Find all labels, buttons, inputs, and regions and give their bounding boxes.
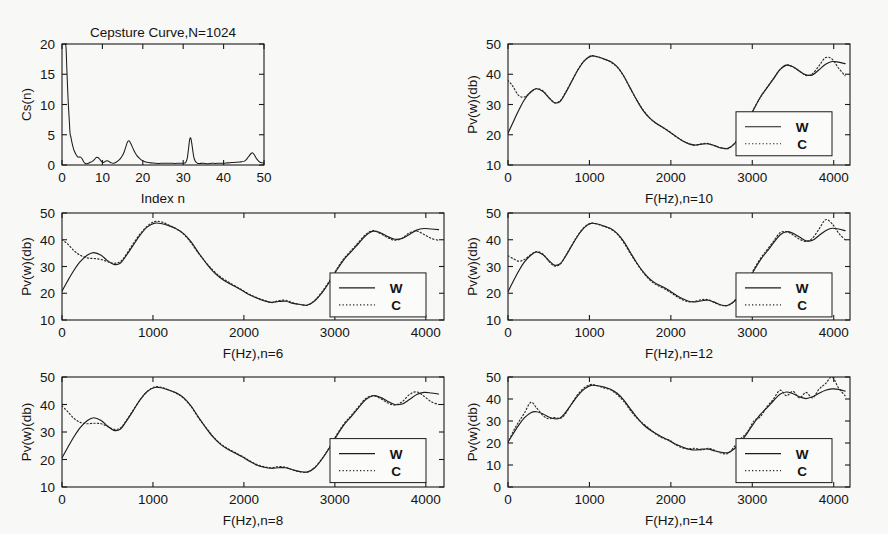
x-tick-label: 2000 xyxy=(656,325,686,340)
y-tick-label: 40 xyxy=(486,233,501,248)
x-tick-label: 0 xyxy=(58,492,66,507)
x-tick-label: 20 xyxy=(135,170,150,185)
x-tick-label: 2000 xyxy=(656,492,686,507)
legend-label-w: W xyxy=(796,281,809,296)
y-tick-label: 10 xyxy=(486,313,501,328)
y-tick-label: 50 xyxy=(486,206,501,221)
y-tick-label: 40 xyxy=(40,233,55,248)
y-axis-label: Pv(w)(db) xyxy=(465,237,480,296)
plot-frame xyxy=(62,44,264,165)
legend-label-w: W xyxy=(390,447,403,462)
x-tick-label: 4000 xyxy=(411,325,441,340)
y-tick-label: 30 xyxy=(486,414,501,429)
y-axis-label: Pv(w)(db) xyxy=(19,403,34,462)
subplot-spectrum-n10: 010002000300040001020304050Pv(w)(db)F(Hz… xyxy=(462,24,864,209)
y-tick-label: 50 xyxy=(40,370,55,385)
y-tick-label: 40 xyxy=(486,67,501,82)
x-tick-label: 2000 xyxy=(229,325,259,340)
y-tick-label: 20 xyxy=(486,436,501,451)
x-tick-label: 4000 xyxy=(411,492,441,507)
x-tick-label: 3000 xyxy=(737,492,767,507)
x-axis-label: F(Hz),n=8 xyxy=(223,513,283,528)
x-tick-label: 1000 xyxy=(574,170,604,185)
legend-label-w: W xyxy=(796,447,809,462)
legend-label-w: W xyxy=(796,120,809,135)
x-tick-label: 50 xyxy=(256,170,271,185)
y-tick-label: 50 xyxy=(40,206,55,221)
y-tick-label: 15 xyxy=(40,67,55,82)
legend-label-c: C xyxy=(391,464,401,479)
legend-label-w: W xyxy=(390,281,403,296)
y-tick-label: 30 xyxy=(486,260,501,275)
x-tick-label: 4000 xyxy=(819,325,849,340)
y-tick-label: 40 xyxy=(486,392,501,407)
y-tick-label: 10 xyxy=(486,458,501,473)
x-tick-label: 3000 xyxy=(737,170,767,185)
subplot-spectrum-n12: 010002000300040001020304050Pv(w)(db)F(Hz… xyxy=(462,193,864,364)
y-axis-label: Pv(w)(db) xyxy=(465,75,480,134)
y-tick-label: 20 xyxy=(40,37,55,52)
y-tick-label: 50 xyxy=(486,370,501,385)
y-tick-label: 10 xyxy=(40,98,55,113)
y-tick-label: 30 xyxy=(486,98,501,113)
x-tick-label: 0 xyxy=(504,492,512,507)
x-tick-label: 2000 xyxy=(656,170,686,185)
y-axis-label: Pv(w)(db) xyxy=(465,403,480,462)
y-tick-label: 20 xyxy=(40,453,55,468)
subplot-spectrum-n8: 010002000300040001020304050Pv(w)(db)F(Hz… xyxy=(16,357,458,531)
legend-label-c: C xyxy=(391,298,401,313)
y-tick-label: 10 xyxy=(40,313,55,328)
y-tick-label: 30 xyxy=(40,260,55,275)
legend-label-c: C xyxy=(797,298,807,313)
x-tick-label: 10 xyxy=(95,170,110,185)
legend-label-c: C xyxy=(797,464,807,479)
y-axis-label: Cs(n) xyxy=(19,88,34,121)
x-tick-label: 2000 xyxy=(229,492,259,507)
subplot-cepstrum: 0102030405005101520Cs(n)Index nCepsture … xyxy=(16,24,278,209)
y-tick-label: 20 xyxy=(486,286,501,301)
legend-box xyxy=(736,112,832,156)
subplot-spectrum-n6: 010002000300040001020304050Pv(w)(db)F(Hz… xyxy=(16,193,458,364)
data-curve-csn xyxy=(62,44,264,164)
y-axis-label: Pv(w)(db) xyxy=(19,237,34,296)
legend-box xyxy=(736,439,832,483)
legend-box xyxy=(330,439,426,483)
y-tick-label: 20 xyxy=(40,286,55,301)
y-tick-label: 0 xyxy=(47,158,55,173)
x-tick-label: 1000 xyxy=(138,492,168,507)
x-tick-label: 0 xyxy=(58,325,66,340)
x-tick-label: 1000 xyxy=(574,492,604,507)
y-tick-label: 10 xyxy=(486,158,501,173)
x-tick-label: 4000 xyxy=(819,492,849,507)
panel-title: Cepsture Curve,N=1024 xyxy=(90,25,236,40)
x-tick-label: 30 xyxy=(176,170,191,185)
x-tick-label: 0 xyxy=(504,325,512,340)
y-tick-label: 0 xyxy=(493,480,501,495)
x-tick-label: 1000 xyxy=(574,325,604,340)
subplot-spectrum-n14: 0100020003000400001020304050Pv(w)(db)F(H… xyxy=(462,357,864,531)
legend-label-c: C xyxy=(797,137,807,152)
legend-box xyxy=(736,273,832,317)
x-tick-label: 3000 xyxy=(737,325,767,340)
x-tick-label: 40 xyxy=(216,170,231,185)
y-tick-label: 20 xyxy=(486,128,501,143)
figure-canvas: 0102030405005101520Cs(n)Index nCepsture … xyxy=(0,0,888,534)
x-tick-label: 0 xyxy=(58,170,66,185)
legend-box xyxy=(330,273,426,317)
x-tick-label: 3000 xyxy=(320,325,350,340)
y-tick-label: 5 xyxy=(47,128,55,143)
x-axis-label: F(Hz),n=14 xyxy=(645,513,713,528)
x-tick-label: 3000 xyxy=(320,492,350,507)
x-tick-label: 1000 xyxy=(138,325,168,340)
y-tick-label: 40 xyxy=(40,398,55,413)
x-tick-label: 0 xyxy=(504,170,512,185)
y-tick-label: 50 xyxy=(486,37,501,52)
x-tick-label: 4000 xyxy=(819,170,849,185)
y-tick-label: 30 xyxy=(40,425,55,440)
y-tick-label: 10 xyxy=(40,480,55,495)
